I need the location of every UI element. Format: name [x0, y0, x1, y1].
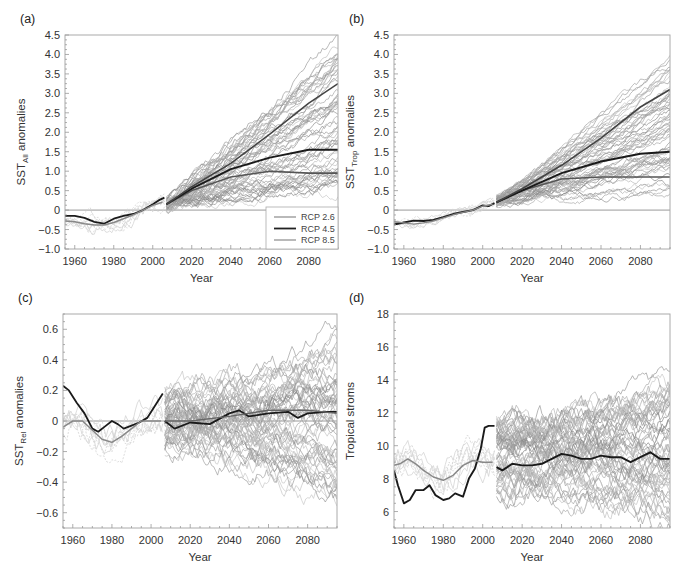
- x-axis-title: Year: [520, 551, 543, 563]
- x-tick-label: 2040: [219, 255, 243, 267]
- x-tick-label: 2060: [258, 255, 282, 267]
- x-tick-label: 1980: [102, 255, 126, 267]
- plot-area: [65, 32, 338, 235]
- y-tick-label: 0.4: [43, 354, 58, 366]
- x-tick-label: 2080: [297, 255, 321, 267]
- historical-ensemble: [65, 194, 164, 234]
- panel-letter: (b): [349, 12, 364, 26]
- x-axis-title: Year: [190, 272, 213, 284]
- y-tick-label: 3.5: [374, 68, 389, 80]
- y-axis-title: SSTRel anomalies: [13, 376, 28, 466]
- legend: RCP 2.6RCP 4.5RCP 8.5: [266, 207, 338, 249]
- x-axis: 1960198020002020204020602080Year: [392, 245, 670, 284]
- y-tick-label: 0.5: [374, 185, 389, 197]
- y-tick-label: 0.6: [43, 323, 58, 335]
- y-tick-label: −1.0: [367, 243, 389, 255]
- x-tick-label: 2020: [510, 534, 534, 546]
- y-tick-label: −0.2: [36, 446, 58, 458]
- y-tick-label: 2.0: [374, 126, 389, 138]
- x-tick-label: 2000: [470, 255, 494, 267]
- projection-ensemble: [497, 367, 671, 534]
- y-tick-label: 1.5: [45, 146, 60, 158]
- panel-d-tropical-storms: (d)6810121416181960198020002020204020602…: [344, 291, 670, 563]
- y-tick-label: 18: [377, 308, 389, 320]
- x-tick-label: 2020: [178, 534, 202, 546]
- legend-label: RCP 4.5: [301, 224, 335, 234]
- x-tick-label: 1960: [61, 534, 85, 546]
- projection-ensemble: [497, 55, 671, 207]
- x-tick-label: 2000: [141, 255, 165, 267]
- x-axis: 1960198020002020204020602080Year: [63, 245, 338, 284]
- x-tick-label: 2060: [589, 534, 613, 546]
- figure-canvas: (a)−1.0−0.500.51.01.52.02.53.03.54.04.51…: [0, 0, 685, 576]
- legend-label: RCP 2.6: [301, 212, 335, 222]
- y-axis: −1.0−0.500.51.01.52.02.53.03.54.04.5: [367, 29, 398, 255]
- x-tick-label: 2060: [256, 534, 280, 546]
- y-axis-title: Tropical stroms: [344, 382, 356, 460]
- y-tick-label: 14: [377, 374, 389, 386]
- x-tick-label: 1960: [63, 255, 87, 267]
- x-tick-label: 2020: [510, 255, 534, 267]
- x-tick-label: 1980: [431, 534, 455, 546]
- panel-b-sst-trop: (b)−1.0−0.500.51.01.52.02.53.03.54.04.51…: [344, 12, 670, 284]
- panel-c-sst-rel: (c)−0.6−0.4−0.200.20.40.6196019802000202…: [13, 291, 337, 563]
- y-tick-label: 2.5: [374, 107, 389, 119]
- y-tick-label: 0.2: [43, 384, 58, 396]
- x-tick-label: 2000: [139, 534, 163, 546]
- y-tick-label: −0.6: [36, 507, 58, 519]
- x-tick-label: 2040: [217, 534, 241, 546]
- x-tick-label: 1980: [100, 534, 124, 546]
- y-tick-label: 0: [54, 204, 60, 216]
- y-tick-label: −1.0: [38, 243, 60, 255]
- y-tick-label: 3.0: [374, 87, 389, 99]
- y-tick-label: −0.4: [36, 476, 58, 488]
- x-tick-label: 2020: [180, 255, 204, 267]
- y-tick-label: 2.5: [45, 107, 60, 119]
- x-tick-label: 1980: [431, 255, 455, 267]
- y-tick-label: 1.5: [374, 146, 389, 158]
- y-tick-label: 0: [52, 415, 58, 427]
- x-axis-title: Year: [188, 551, 211, 563]
- historical-ensemble: [394, 435, 495, 499]
- y-tick-label: 3.0: [45, 87, 60, 99]
- y-tick-label: 2.0: [45, 126, 60, 138]
- panel-letter: (d): [349, 291, 364, 305]
- plot-area: [63, 321, 337, 506]
- y-tick-label: 8: [383, 473, 389, 485]
- x-tick-label: 1960: [392, 255, 416, 267]
- plot-area: [394, 55, 670, 228]
- x-tick-label: 2040: [549, 534, 573, 546]
- y-axis: −0.6−0.4−0.200.20.40.6: [36, 314, 67, 528]
- y-tick-label: 1.0: [45, 165, 60, 177]
- x-axis: 1960198020002020204020602080Year: [61, 524, 337, 563]
- x-tick-label: 2080: [628, 255, 652, 267]
- legend-label: RCP 8.5: [301, 235, 335, 245]
- y-tick-label: 4.5: [374, 29, 389, 41]
- panel-a-sst-all: (a)−1.0−0.500.51.01.52.02.53.03.54.04.51…: [15, 12, 338, 284]
- series-observed: [394, 203, 495, 224]
- y-tick-label: −0.5: [38, 224, 60, 236]
- y-tick-label: 6: [383, 506, 389, 518]
- y-axis: −1.0−0.500.51.01.52.02.53.03.54.04.5: [38, 29, 69, 255]
- y-axis: 681012141618: [377, 308, 398, 528]
- y-axis-title: SSTTrop anomalies: [344, 95, 359, 189]
- y-tick-label: 0: [383, 204, 389, 216]
- y-tick-label: 4.0: [45, 48, 60, 60]
- x-tick-label: 2080: [628, 534, 652, 546]
- x-tick-label: 2040: [549, 255, 573, 267]
- panel-letter: (c): [18, 291, 33, 305]
- y-tick-label: 12: [377, 407, 389, 419]
- y-tick-label: 4.0: [374, 48, 389, 60]
- y-tick-label: 0.5: [45, 185, 60, 197]
- y-tick-label: 10: [377, 440, 389, 452]
- x-tick-label: 1960: [392, 534, 416, 546]
- y-axis-title: SSTAll anomalies: [15, 98, 30, 185]
- y-tick-label: 16: [377, 341, 389, 353]
- x-axis-title: Year: [520, 272, 543, 284]
- panel-letter: (a): [20, 12, 35, 26]
- y-tick-label: 3.5: [45, 68, 60, 80]
- x-tick-label: 2080: [295, 534, 319, 546]
- x-axis: 1960198020002020204020602080Year: [392, 524, 670, 563]
- x-tick-label: 2000: [470, 534, 494, 546]
- y-tick-label: 1.0: [374, 165, 389, 177]
